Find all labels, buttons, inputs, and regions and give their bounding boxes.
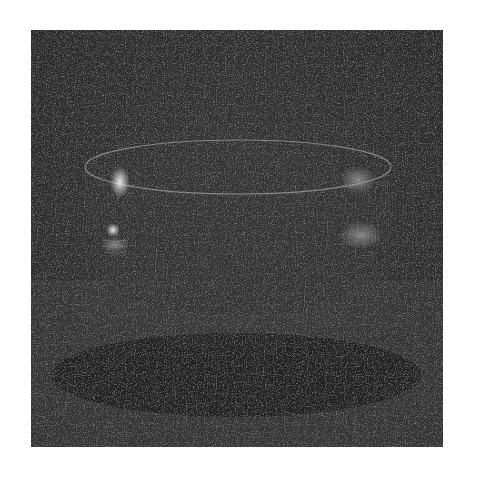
- glass-bowl-photo: [31, 30, 443, 447]
- photo-render: [31, 30, 443, 447]
